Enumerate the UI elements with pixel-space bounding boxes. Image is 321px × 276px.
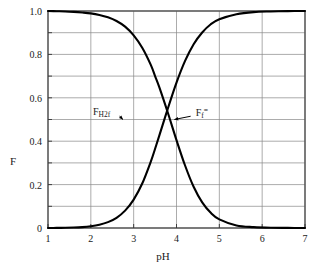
y-tick-label: 0.2 xyxy=(6,179,42,190)
y-tick-label: 0.4 xyxy=(6,136,42,147)
series-label-h2f: FH2f xyxy=(93,106,110,119)
x-tick-label: 2 xyxy=(88,233,93,244)
x-axis-label: pH xyxy=(156,250,169,262)
y-axis-label: F xyxy=(10,155,16,167)
x-tick-label: 3 xyxy=(131,233,136,244)
x-tick-label: 1 xyxy=(46,233,51,244)
x-tick-label: 5 xyxy=(217,233,222,244)
y-tick-label: 1.0 xyxy=(6,6,42,17)
x-tick-label: 6 xyxy=(260,233,265,244)
x-tick-label: 7 xyxy=(303,233,308,244)
y-tick-label: 0.8 xyxy=(6,49,42,60)
series-label-h2f-sub-f: f xyxy=(108,110,111,119)
y-tick-label: 0.6 xyxy=(6,92,42,103)
series-label-f2minus-sup: = xyxy=(204,106,208,115)
y-tick-label: 0 xyxy=(6,223,42,234)
x-tick-label: 4 xyxy=(174,233,179,244)
fractional-composition-chart: F pH 00.20.40.60.81.0 1234567 FH2f Ff= xyxy=(0,0,321,276)
series-label-f2minus: Ff= xyxy=(196,106,208,120)
